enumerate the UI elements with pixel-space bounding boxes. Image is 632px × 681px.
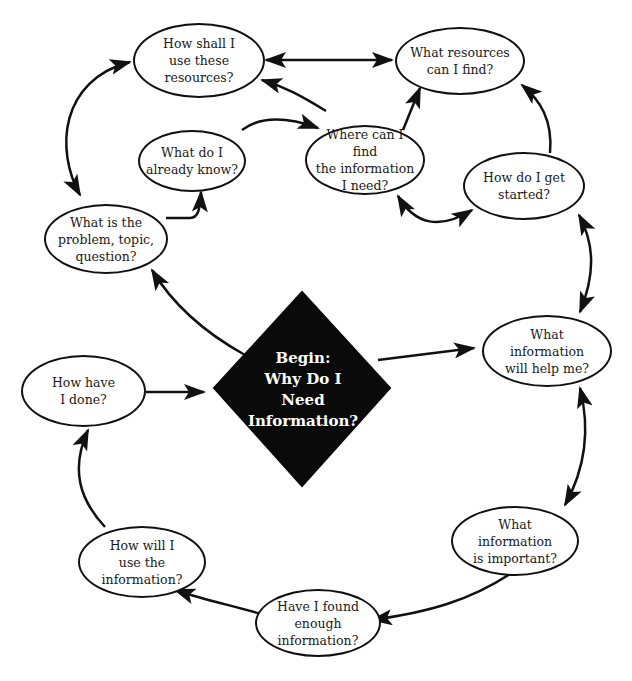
node-what-do-i-know: What do I already know?	[138, 130, 246, 192]
node-found-enough: Have I found enough information?	[255, 589, 381, 657]
arrow-problem-to-know	[166, 192, 201, 218]
node-how-do-i-start: How do I get started?	[463, 152, 585, 220]
node-what-info-help: What information will help me?	[482, 315, 612, 387]
arrow-center-to-help	[378, 348, 474, 360]
arrow-important-to-enough	[372, 574, 510, 620]
arrow-start-to-help	[579, 215, 591, 312]
arrow-where-to-resources	[403, 88, 420, 130]
arrow-know-to-where	[242, 120, 318, 130]
arrow-start-to-resources	[522, 85, 550, 153]
arrow-use-info-to-done	[79, 430, 105, 527]
arrow-where-to-use-resources	[262, 80, 326, 111]
node-what-info-important: What information is important?	[451, 506, 579, 576]
node-where-can-i-find: Where can I find the information I need?	[305, 125, 425, 195]
arrow-where-to-start	[398, 196, 472, 222]
arrow-enough-to-use-info	[175, 590, 265, 615]
node-how-have-i-done: How have I done?	[21, 355, 146, 427]
node-how-shall-i-use: How shall I use these resources?	[133, 23, 265, 98]
node-what-is-problem: What is the problem, topic, question?	[44, 204, 168, 274]
arrow-problem-to-use-resources	[66, 62, 130, 195]
center-diamond-label: Begin: Why Do I Need Information?	[228, 330, 378, 450]
node-what-resources: What resources can I find?	[395, 27, 525, 95]
arrow-help-to-important	[565, 388, 585, 505]
node-how-will-i-use: How will I use the information?	[78, 526, 206, 598]
